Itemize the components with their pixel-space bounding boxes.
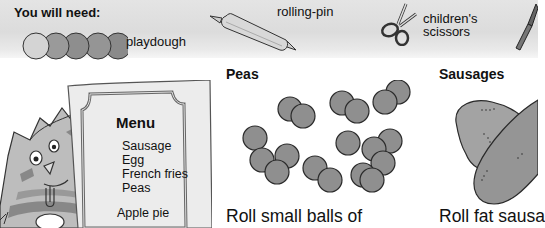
playdough-label: playdough <box>126 35 186 49</box>
peas-illustration <box>240 80 420 200</box>
rolling-pin-label: rolling-pin <box>277 5 333 19</box>
supplies-banner: You will need: playdough rolling-pin chi… <box>0 0 538 58</box>
menu-list: Sausage Egg French fries Peas <box>122 139 188 195</box>
supplies-title: You will need: <box>14 5 100 20</box>
menu-title: Menu <box>116 114 155 131</box>
playdough-balls-icon <box>22 30 128 66</box>
peas-instructions: Roll small balls of <box>226 206 362 227</box>
scissors-label-line2: scissors <box>423 25 470 39</box>
sausages-instructions: Roll fat sausa <box>439 206 545 227</box>
menu-item: French fries <box>122 167 188 181</box>
scissors-icon <box>380 2 420 46</box>
menu-item: Egg <box>122 153 188 167</box>
sausages-illustration <box>454 94 538 206</box>
knife-icon <box>512 2 538 54</box>
sausages-title: Sausages <box>439 66 504 82</box>
menu-dessert: Apple pie <box>117 206 169 220</box>
menu-item: Peas <box>122 181 188 195</box>
menu-item: Sausage <box>122 139 188 153</box>
